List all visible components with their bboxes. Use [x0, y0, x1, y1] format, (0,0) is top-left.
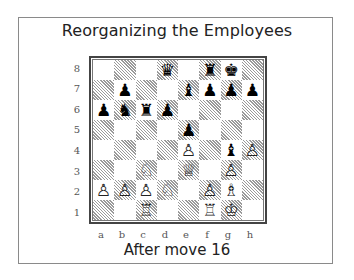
- file-label-f: f: [201, 229, 213, 240]
- square-b6: ♞: [114, 100, 135, 120]
- square-f2: ♙: [199, 180, 220, 200]
- square-a1: [93, 200, 114, 220]
- square-h2: [242, 180, 263, 200]
- square-f1: ♖: [199, 200, 220, 220]
- square-b3: [114, 160, 135, 180]
- square-h5: [242, 120, 263, 140]
- square-a3: [93, 160, 114, 180]
- square-d4: [157, 140, 178, 160]
- rank-label-4: 4: [72, 145, 82, 156]
- file-label-c: c: [137, 229, 149, 240]
- rank-label-2: 2: [72, 186, 82, 197]
- white-bishop-icon: ♗: [224, 182, 239, 199]
- square-a7: [93, 80, 114, 100]
- black-pawn-icon: ♟: [181, 122, 196, 139]
- white-rook-icon: ♖: [202, 202, 217, 219]
- white-rook-icon: ♖: [139, 202, 154, 219]
- square-c3: ♘: [136, 160, 157, 180]
- white-pawn-icon: ♙: [202, 182, 217, 199]
- square-h4: ♙: [242, 140, 263, 160]
- rank-label-6: 6: [72, 104, 82, 115]
- square-f3: [199, 160, 220, 180]
- square-d7: [157, 80, 178, 100]
- square-a5: [93, 120, 114, 140]
- square-d1: [157, 200, 178, 220]
- white-knight-icon: ♘: [160, 182, 175, 199]
- square-d2: ♘: [157, 180, 178, 200]
- square-c1: ♖: [136, 200, 157, 220]
- square-d3: [157, 160, 178, 180]
- square-f5: [199, 120, 220, 140]
- slide-title: Reorganizing the Employees: [0, 21, 354, 40]
- white-knight-icon: ♘: [139, 162, 154, 179]
- square-e8: [178, 60, 199, 80]
- square-b7: ♟: [114, 80, 135, 100]
- square-h1: [242, 200, 263, 220]
- file-label-e: e: [180, 229, 192, 240]
- square-b4: [114, 140, 135, 160]
- square-a6: ♟: [93, 100, 114, 120]
- square-a4: [93, 140, 114, 160]
- square-f7: ♟: [199, 80, 220, 100]
- black-knight-icon: ♞: [117, 102, 132, 119]
- black-rook-icon: ♜: [139, 102, 154, 119]
- black-king-icon: ♚: [224, 62, 239, 79]
- white-pawn-icon: ♙: [117, 182, 132, 199]
- square-f8: ♜: [199, 60, 220, 80]
- square-e7: ♝: [178, 80, 199, 100]
- file-label-a: a: [95, 229, 107, 240]
- square-b2: ♙: [114, 180, 135, 200]
- black-bishop-icon: ♝: [181, 82, 196, 99]
- rank-label-3: 3: [72, 166, 82, 177]
- slide-caption: After move 16: [0, 241, 354, 259]
- square-h8: [242, 60, 263, 80]
- square-h7: ♟: [242, 80, 263, 100]
- rank-label-1: 1: [72, 207, 82, 218]
- square-h6: [242, 100, 263, 120]
- square-e5: ♟: [178, 120, 199, 140]
- black-pawn-icon: ♟: [117, 82, 132, 99]
- white-pawn-icon: ♙: [181, 142, 196, 159]
- square-d8: ♛: [157, 60, 178, 80]
- square-f6: [199, 100, 220, 120]
- square-e4: ♙: [178, 140, 199, 160]
- square-d6: ♟: [157, 100, 178, 120]
- square-g4: ♝: [221, 140, 242, 160]
- rank-label-5: 5: [72, 124, 82, 135]
- square-c2: ♙: [136, 180, 157, 200]
- chessboard-frame: ♛♜♚♟♝♟♟♟♟♞♜♟♟♙♝♙♘♕♙♙♙♙♘♙♗♖♖♔: [89, 56, 267, 224]
- square-e2: [178, 180, 199, 200]
- square-g6: [221, 100, 242, 120]
- white-pawn-icon: ♙: [96, 182, 111, 199]
- white-pawn-icon: ♙: [245, 142, 260, 159]
- square-g8: ♚: [221, 60, 242, 80]
- black-pawn-icon: ♟: [245, 82, 260, 99]
- square-g2: ♗: [221, 180, 242, 200]
- square-c5: [136, 120, 157, 140]
- rank-label-8: 8: [72, 63, 82, 74]
- file-label-b: b: [116, 229, 128, 240]
- rank-label-7: 7: [72, 83, 82, 94]
- black-pawn-icon: ♟: [224, 82, 239, 99]
- square-a2: ♙: [93, 180, 114, 200]
- square-g3: ♙: [221, 160, 242, 180]
- square-c6: ♜: [136, 100, 157, 120]
- square-e6: [178, 100, 199, 120]
- square-b5: [114, 120, 135, 140]
- white-pawn-icon: ♙: [224, 162, 239, 179]
- black-rook-icon: ♜: [202, 62, 217, 79]
- square-a8: [93, 60, 114, 80]
- white-queen-icon: ♕: [181, 162, 196, 179]
- chessboard: ♛♜♚♟♝♟♟♟♟♞♜♟♟♙♝♙♘♕♙♙♙♙♘♙♗♖♖♔: [92, 59, 264, 221]
- square-c8: [136, 60, 157, 80]
- file-label-g: g: [222, 229, 234, 240]
- white-king-icon: ♔: [224, 202, 239, 219]
- square-g1: ♔: [221, 200, 242, 220]
- square-b1: [114, 200, 135, 220]
- square-b8: [114, 60, 135, 80]
- square-g7: ♟: [221, 80, 242, 100]
- square-g5: [221, 120, 242, 140]
- square-c7: [136, 80, 157, 100]
- square-c4: [136, 140, 157, 160]
- black-pawn-icon: ♟: [96, 102, 111, 119]
